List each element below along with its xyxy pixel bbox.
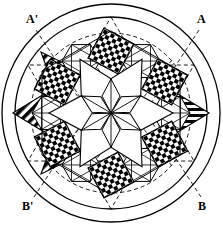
axis-label-b-prime: B': [22, 200, 33, 212]
star-rosette-diagram: A' A B' B: [0, 0, 223, 227]
axis-label-a-prime: A': [26, 13, 38, 25]
diagram-canvas: [0, 0, 223, 227]
axis-label-a: A: [197, 13, 206, 25]
axis-label-b: B: [198, 200, 206, 212]
